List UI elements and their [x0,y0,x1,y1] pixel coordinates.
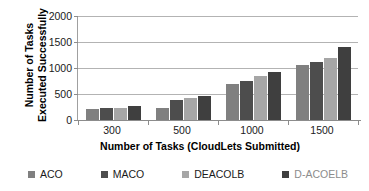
legend-swatch-icon [28,171,35,178]
legend-entry: D-ACOELB [282,168,348,180]
y-tick-mark [74,16,78,17]
y-tick-label: 500 [44,89,72,99]
bar [100,108,113,120]
y-axis-title-line1: Number of Tasks [23,23,35,107]
bar [338,47,351,120]
y-tick-mark [74,68,78,69]
bar-group [78,16,148,120]
x-axis-baseline [77,120,361,121]
y-tick-label: 0 [44,115,72,125]
bar [184,98,197,120]
legend-swatch-icon [182,171,189,178]
legend-swatch-icon [101,171,108,178]
bar [86,109,99,120]
plot-area [77,16,358,120]
bar-chart-figure: Number of Tasks Executed Successfully 05… [0,0,369,191]
bar [114,108,127,120]
bar-groups [78,16,358,120]
legend-entry: DEACOLB [182,168,244,180]
legend-label: D-ACOELB [294,168,348,180]
x-tick-label: 1500 [287,124,357,138]
bar [226,84,239,120]
bar [198,96,211,120]
bar [310,62,323,120]
legend-entry: MACO [101,168,145,180]
x-axis-tick-labels: 30050010001500 [77,124,357,138]
legend-swatch-icon [282,171,289,178]
legend-entry: ACO [28,168,63,180]
x-tick-label: 300 [77,124,147,138]
y-tick-label: 1000 [44,63,72,73]
bar [170,100,183,120]
bar [324,58,337,120]
y-tick-label: 2000 [44,11,72,21]
bar [240,81,253,120]
legend-label: MACO [113,168,145,180]
chart-legend: ACOMACODEACOLBD-ACOELB [28,166,348,182]
bar [156,108,169,120]
y-tick-mark [74,94,78,95]
x-axis-title: Number of Tasks (CloudLets Submitted) [50,140,350,152]
bar-group [148,16,218,120]
bar [268,72,281,120]
x-tick-label: 500 [147,124,217,138]
y-tick-mark [74,42,78,43]
bar [296,65,309,120]
bar-group [218,16,288,120]
x-tick-label: 1000 [217,124,287,138]
bar-group [288,16,358,120]
bar [254,76,267,120]
legend-label: ACO [40,168,63,180]
y-axis-tick-labels: 0500100015002000 [40,0,72,130]
bar [128,106,141,120]
legend-label: DEACOLB [194,168,244,180]
y-tick-label: 1500 [44,37,72,47]
